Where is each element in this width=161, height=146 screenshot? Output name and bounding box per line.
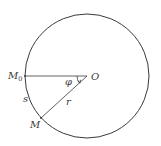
label-M0-subscript: 0 (18, 75, 22, 83)
label-M0-main: M (7, 70, 19, 81)
label-phi: φ (65, 76, 72, 87)
label-s: s (23, 93, 28, 104)
label-M: M (29, 119, 41, 130)
point-M0 (24, 75, 26, 77)
circle-diagram: O M0 φ s r M (0, 0, 161, 146)
label-M0: M0 (7, 70, 22, 83)
label-O: O (91, 71, 99, 82)
label-r: r (66, 96, 72, 107)
point-M (40, 117, 42, 119)
